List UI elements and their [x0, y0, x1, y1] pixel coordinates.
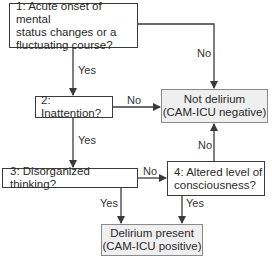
edge-label-q3-no: No	[143, 165, 157, 177]
node-not-delirium: Not delirium (CAM-ICU negative)	[161, 89, 268, 123]
edge-label-q3-yes: Yes	[100, 197, 118, 209]
node-neg-text: Not delirium (CAM-ICU negative)	[163, 93, 267, 119]
cam-icu-flowchart: 1: Acute onset of mental status changes …	[0, 0, 272, 261]
node-pos-text: Delirium present (CAM-ICU positive)	[102, 227, 201, 253]
node-q2-text: 2: Inattention?	[41, 94, 112, 120]
edge-label-q1-no: No	[197, 47, 211, 59]
edge-label-q4-yes: Yes	[186, 197, 204, 209]
edge-label-q2-yes: Yes	[78, 134, 96, 146]
node-q3-text: 3: Disorganized thinking?	[10, 165, 137, 191]
edge-label-q1-yes: Yes	[78, 64, 96, 76]
edge-label-q4-no: No	[198, 139, 212, 151]
edge-label-q2-no: No	[127, 94, 141, 106]
node-q1-text: 1: Acute onset of mental status changes …	[16, 0, 137, 52]
node-q3-disorganized-thinking: 3: Disorganized thinking?	[2, 168, 138, 188]
node-q2-inattention: 2: Inattention?	[35, 96, 113, 118]
node-q4-text: 4: Altered level of consciousness?	[174, 166, 262, 192]
node-q1-acute-onset: 1: Acute onset of mental status changes …	[9, 3, 138, 48]
node-delirium-present: Delirium present (CAM-ICU positive)	[101, 224, 203, 256]
node-q4-altered-consciousness: 4: Altered level of consciousness?	[167, 161, 265, 196]
